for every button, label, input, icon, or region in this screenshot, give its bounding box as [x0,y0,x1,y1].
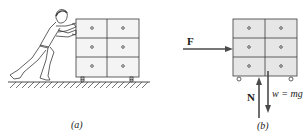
figure-canvas [0,0,306,137]
force-N-arrow [256,77,262,118]
wheels [81,77,133,82]
force-w-label: w = mg [272,89,303,99]
ground-hatch [8,82,150,88]
force-w-arrow [265,71,271,113]
person-pushing [10,9,76,80]
caption-b: (b) [257,121,269,131]
caption-a: (a) [71,120,83,130]
force-F-label: F [187,36,194,47]
panel-a [8,9,150,88]
cabinet-a [76,19,139,82]
wheels-b [237,77,293,81]
cabinet-b [233,19,297,81]
panel-b [183,19,297,118]
force-N-label: N [247,92,255,103]
